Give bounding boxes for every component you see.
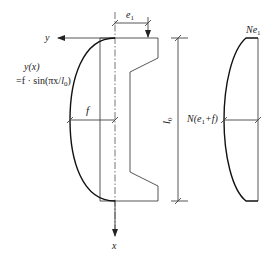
- e-sub: 1: [130, 14, 134, 22]
- func-suffix: ): [67, 75, 70, 87]
- effective-length-label: l0: [160, 117, 174, 124]
- func-prefix: =f · sin(πx/: [16, 75, 61, 87]
- mid-prefix: N(e: [186, 113, 202, 125]
- mid-moment-label: N(e1+f): [186, 113, 218, 126]
- deflection-function-line1: y(x): [23, 61, 40, 73]
- deflection-function-line2: =f · sin(πx/l0): [16, 75, 71, 88]
- deflection-label: f: [86, 104, 91, 116]
- column-deflection-diagram: x y f y(x) =f · sin(πx/l0) e1 l0 Ne1 N(e…: [0, 0, 271, 262]
- ne-text: Ne: [245, 24, 258, 35]
- ne-sub: 1: [257, 29, 261, 37]
- column-outline: [100, 38, 158, 201]
- moment-curve: [224, 38, 258, 201]
- x-axis-label: x: [111, 240, 117, 251]
- end-moment-label: Ne1: [245, 24, 261, 37]
- eccentricity-label: e1: [126, 9, 134, 22]
- deflection-curve: [70, 38, 115, 201]
- mid-suffix: +f): [205, 113, 219, 125]
- y-axis-label: y: [44, 32, 50, 43]
- l-sub: 0: [166, 117, 174, 121]
- length-label-group: l0: [160, 117, 174, 124]
